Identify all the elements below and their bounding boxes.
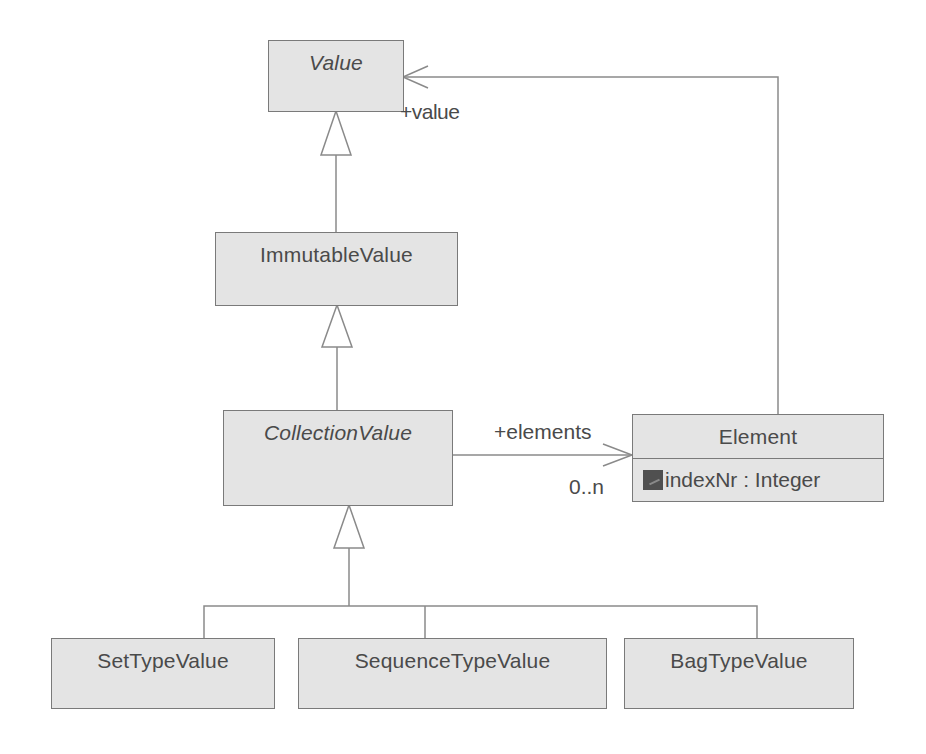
attribute-row[interactable]: indexNr : Integer <box>633 459 883 500</box>
multiplicity-label: 0..n <box>569 475 604 499</box>
class-name: CollectionValue <box>224 411 452 445</box>
class-name: SetTypeValue <box>52 639 274 673</box>
class-name: ImmutableValue <box>216 233 457 267</box>
role-label-value: +value <box>400 100 459 124</box>
class-element[interactable]: Element indexNr : Integer <box>632 414 884 502</box>
class-immutable-value[interactable]: ImmutableValue <box>215 232 458 306</box>
class-bag-type-value[interactable]: BagTypeValue <box>624 638 854 709</box>
class-name: Element <box>633 415 883 449</box>
private-attribute-icon <box>643 470 663 490</box>
class-value[interactable]: Value <box>268 40 404 112</box>
class-name: SequenceTypeValue <box>299 639 606 673</box>
class-collection-value[interactable]: CollectionValue <box>223 410 453 506</box>
role-label-elements: +elements <box>494 420 591 444</box>
class-sequence-type-value[interactable]: SequenceTypeValue <box>298 638 607 709</box>
generalization-arrow-icon <box>322 305 352 347</box>
class-name: Value <box>269 41 403 75</box>
class-name-compartment: Element <box>633 415 883 459</box>
class-set-type-value[interactable]: SetTypeValue <box>51 638 275 709</box>
generalization-arrow-icon <box>334 505 364 548</box>
generalization-arrow-icon <box>321 111 351 155</box>
association-line-value <box>403 77 778 414</box>
attribute-text: indexNr : Integer <box>665 468 820 492</box>
class-name: BagTypeValue <box>625 639 853 673</box>
generalization-tree-line <box>204 606 757 638</box>
